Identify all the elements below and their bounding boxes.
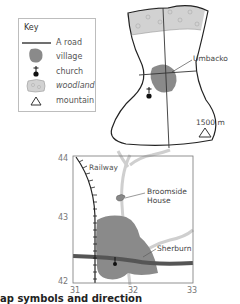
upper-sketch-map: Umbacko 1500 m	[0, 0, 240, 150]
y-tick-44: 44	[58, 154, 68, 163]
railway-label: Railway	[89, 163, 119, 172]
sherburn-village	[96, 216, 158, 280]
y-tick-42: 42	[58, 277, 68, 286]
minor-road-nw	[118, 151, 128, 167]
y-tick-43: 43	[58, 213, 68, 222]
broomside-label: Broomside	[147, 187, 187, 196]
sherburn-label: Sherburn	[157, 244, 192, 253]
section-heading: ap symbols and direction	[0, 293, 142, 304]
x-tick-33: 33	[187, 286, 197, 295]
house-label: House	[147, 196, 171, 205]
mountain-height-label: 1500 m	[196, 118, 225, 127]
minor-road-ne	[130, 150, 170, 165]
umbacko-village	[151, 64, 177, 92]
umbacko-label: Umbacko	[193, 54, 228, 63]
broomside-house	[116, 195, 125, 202]
railway-line	[76, 157, 95, 283]
church-icon	[146, 87, 151, 99]
railway-ties	[79, 160, 97, 279]
mountain-icon	[199, 128, 211, 137]
grid-reference-map: Railway Broomside House Sherburn 44 43 4…	[0, 145, 240, 295]
